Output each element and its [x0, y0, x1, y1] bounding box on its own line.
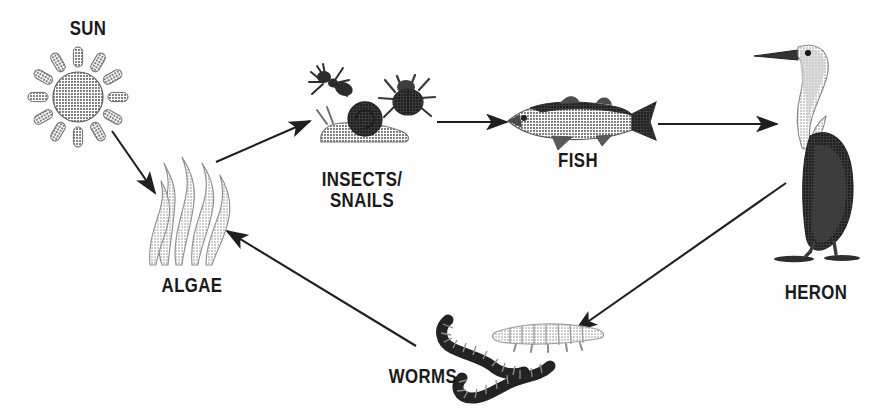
fish-icon	[500, 88, 662, 152]
insects-snails-label: INSECTS/ SNAILS	[306, 168, 418, 211]
food-web-diagram: SUN ALGAE	[0, 0, 872, 416]
light-worm	[493, 324, 604, 352]
fish-node	[500, 88, 662, 152]
arrow-worms-to-algae	[227, 231, 416, 346]
fish-label: FISH	[540, 149, 617, 170]
heron-icon	[752, 20, 868, 272]
worms-node	[420, 300, 630, 410]
worms-label: WORMS	[379, 365, 467, 386]
algae-icon	[142, 133, 242, 267]
sun-label: SUN	[48, 17, 128, 38]
worms-icon	[420, 300, 630, 410]
sun-node	[14, 42, 142, 154]
heron-label: HERON	[770, 281, 863, 302]
heron-node	[752, 20, 868, 272]
snail-icon	[309, 98, 417, 154]
algae-node	[142, 133, 242, 267]
algae-label: ALGAE	[144, 274, 240, 295]
sun-icon	[14, 42, 142, 154]
